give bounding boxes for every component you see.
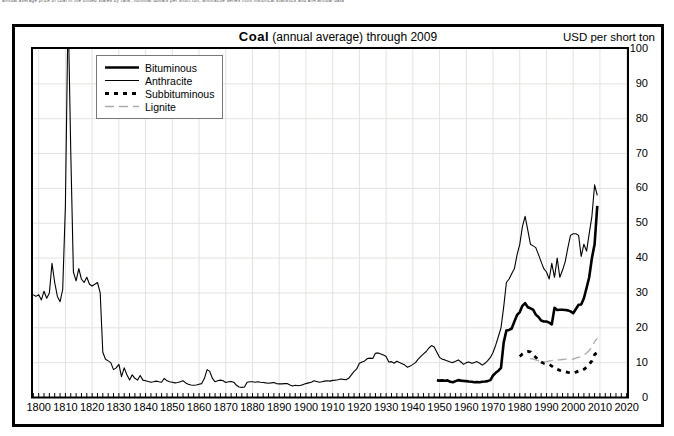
clipped-top-text: annual average price of coal in the unit…	[2, 0, 422, 3]
y-axis-tick-label: 30	[622, 286, 648, 298]
y-axis-tick-label: 90	[622, 77, 648, 89]
legend-item-lignite: Lignite	[104, 100, 222, 113]
y-axis-tick-label: 50	[622, 216, 648, 228]
chart-frame: Coal (annual average) through 2009 USD p…	[12, 24, 664, 427]
legend-sample-line	[104, 89, 140, 98]
y-axis-tick-label: 80	[622, 112, 648, 124]
chart-title-rest: (annual average) through 2009	[269, 30, 437, 44]
legend-item-label: Subbituminous	[145, 88, 214, 100]
series-line-lignite	[530, 338, 597, 362]
y-axis-tick-label: 60	[622, 181, 648, 193]
y-axis-tick-label: 100	[622, 42, 648, 54]
legend-item-subbituminous: Subbituminous	[104, 87, 222, 100]
legend-item-anthracite: Anthracite	[104, 74, 222, 87]
legend-item-label: Anthracite	[145, 75, 192, 87]
legend-sample-line	[104, 102, 140, 111]
legend-item-label: Bituminous	[145, 62, 197, 74]
chart-title-bold: Coal	[239, 29, 269, 44]
y-axis-tick-label: 10	[622, 356, 648, 368]
y-axis-tick-label: 40	[622, 251, 648, 263]
y-axis-tick-label: 70	[622, 147, 648, 159]
y-axis-tick-label: 20	[622, 321, 648, 333]
y-axis-tick-label: 0	[622, 391, 648, 403]
legend-item-bituminous: Bituminous	[104, 61, 222, 74]
legend: BituminousAnthraciteSubbituminousLignite	[96, 55, 223, 119]
legend-sample-line	[104, 63, 140, 72]
coal-price-chart-page: { "page": { "illegible_clipped_caption":…	[0, 0, 674, 436]
x-axis-tick-label: 2020	[610, 401, 644, 413]
legend-sample-line	[104, 76, 140, 85]
legend-item-label: Lignite	[145, 101, 176, 113]
